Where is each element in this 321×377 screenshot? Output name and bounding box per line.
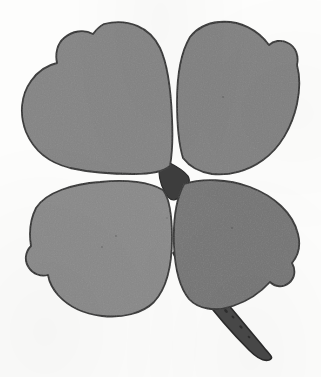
- leaflet-lower-left-shape: [26, 181, 172, 317]
- leaflet-lower-right-shape: [174, 180, 299, 309]
- leaflet-upper-right: [177, 22, 299, 175]
- leaflet-lower-left: [26, 181, 172, 317]
- four-leaf-clover-illustration: [0, 0, 321, 377]
- leaflet-upper-right-shape: [177, 22, 299, 175]
- leaflet-upper-left-shape: [22, 22, 173, 174]
- leaflet-lower-right: [174, 180, 299, 309]
- image-canvas: Four-leaf clover Upper left leaflet Uppe…: [0, 0, 321, 377]
- leaflet-upper-left: [22, 22, 173, 174]
